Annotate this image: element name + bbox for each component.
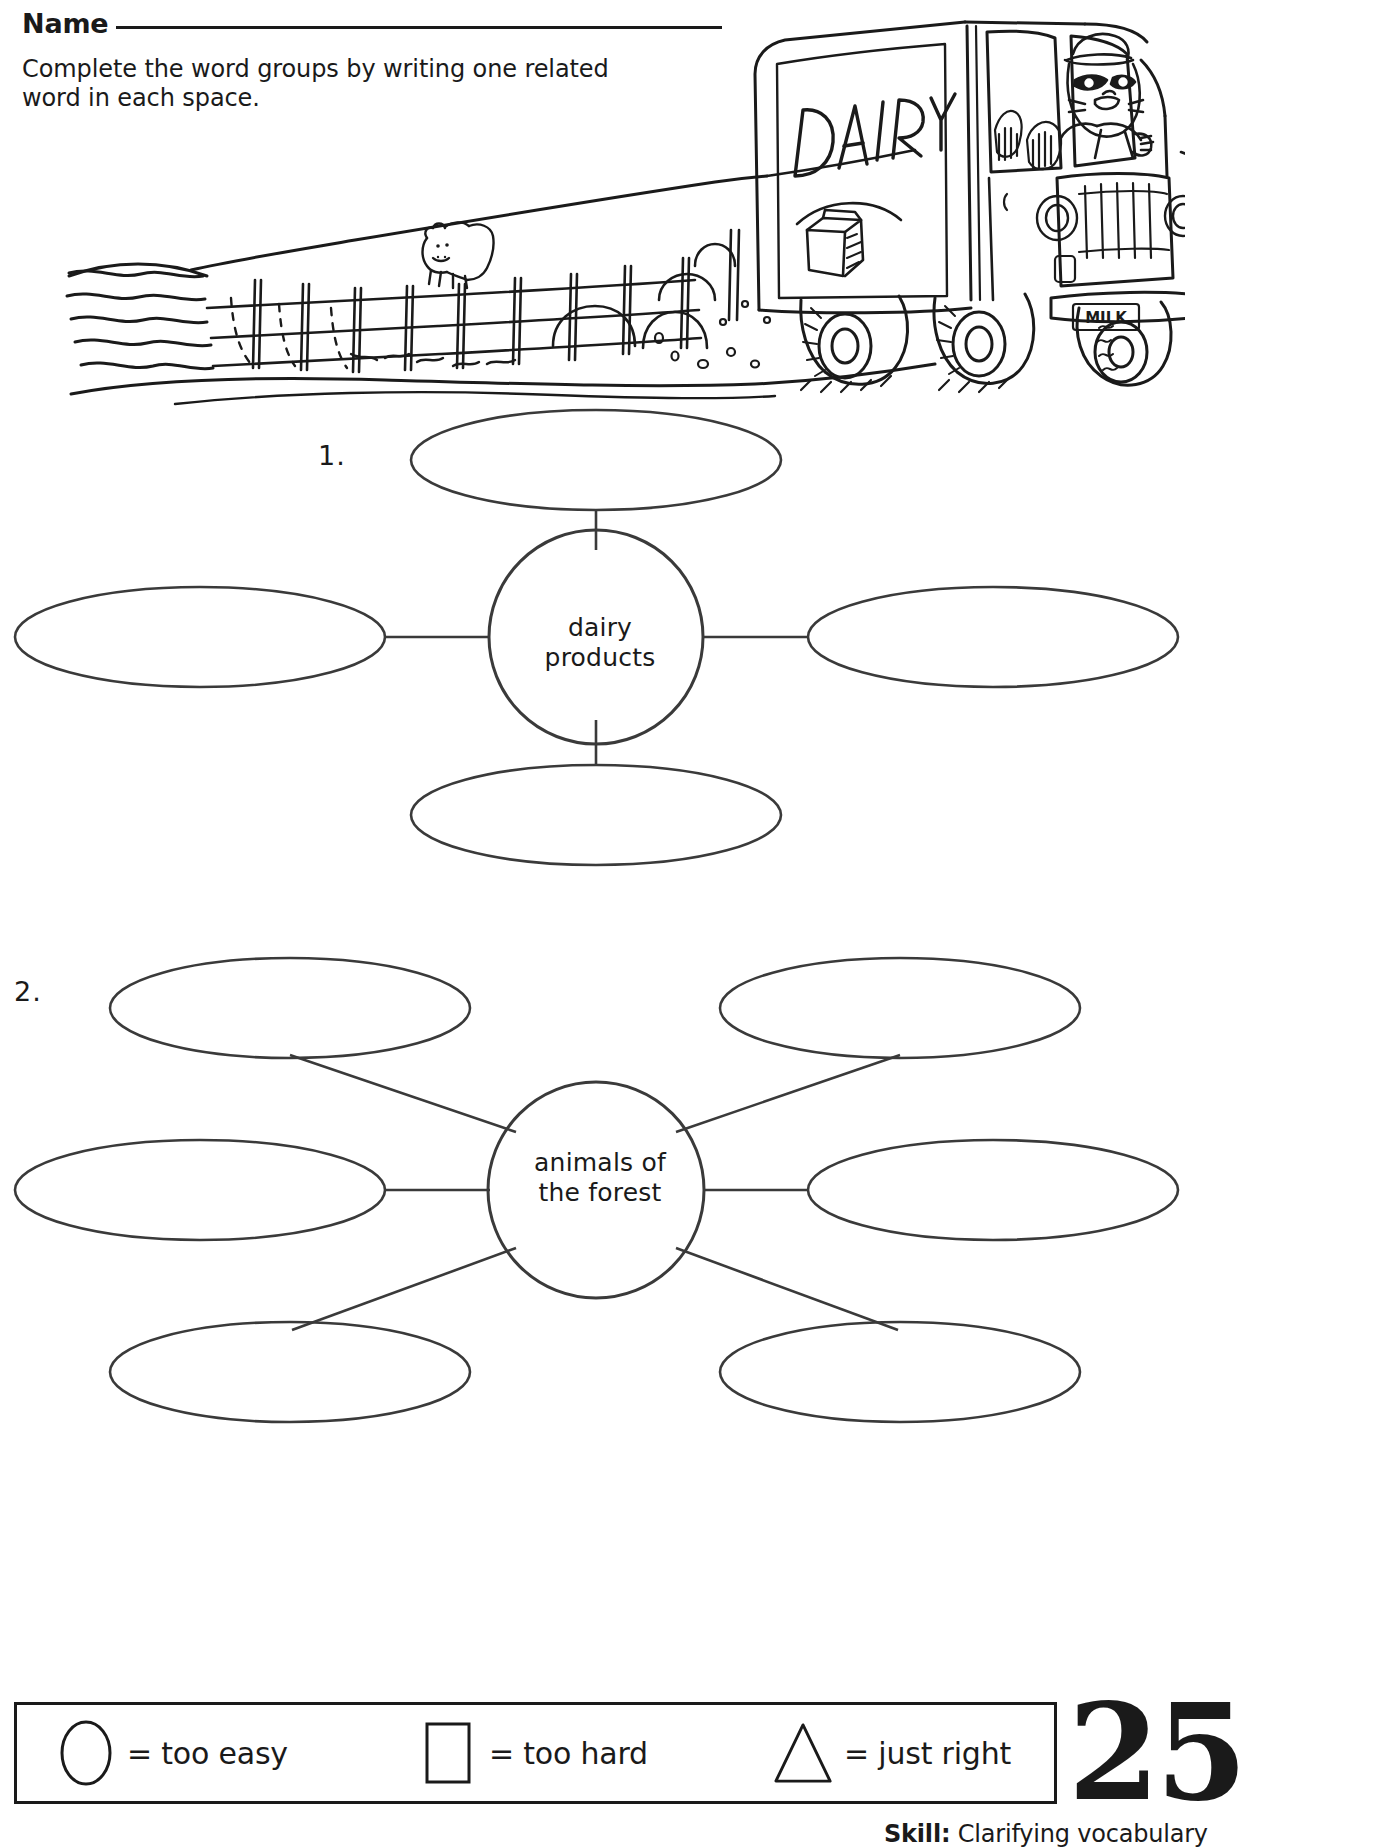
web-1-blank-left[interactable] [15,587,385,687]
dairy-truck-illustration: MILK [55,8,1185,408]
svg-text:MILK: MILK [1085,309,1128,327]
word-web-2 [0,950,1250,1420]
web-1-blank-right[interactable] [808,587,1178,687]
milk-license-plate: MILK [1073,304,1139,330]
legend-label-just-right: = just right [844,1736,1011,1771]
cow-figure [423,222,494,288]
road-bottom-2 [175,392,775,404]
page-number: 25 [1068,1690,1244,1815]
web-2-blank-right[interactable] [808,1140,1178,1240]
web-2-blank-bottom-right[interactable] [720,1322,1080,1422]
legend-item-just-right[interactable]: = just right [772,1718,1011,1788]
skill-prefix: Skill: [884,1820,950,1848]
truck-box-body [755,22,965,310]
milk-carton-logo [797,203,901,276]
legend-label-too-hard: = too hard [489,1736,648,1771]
web-1-connectors [385,510,808,915]
web-1-blank-top[interactable] [411,410,781,510]
ground-detail [351,354,515,366]
fur-tufts [995,111,1061,169]
dairy-sign-text [795,94,955,176]
web-2-blank-top-right[interactable] [720,958,1080,1058]
legend-item-too-hard[interactable]: = too hard [417,1718,648,1788]
circle-icon [55,1718,117,1788]
web-1-center-circle [489,530,703,744]
legend-label-too-easy: = too easy [127,1736,288,1771]
web-2-blank-bottom-left[interactable] [110,1322,470,1422]
skill-text: Clarifying vocabulary [950,1820,1208,1848]
word-web-1 [0,415,1250,885]
web-2-blank-top-left[interactable] [110,958,470,1058]
skill-line: Skill: Clarifying vocabulary [884,1820,1208,1848]
self-assessment-bar: = too easy = too hard = just right [14,1702,1057,1804]
legend-item-too-easy[interactable]: = too easy [55,1718,288,1788]
dairy-truck: MILK [755,22,1185,392]
hill-hatching [67,271,213,369]
hill-ridge [191,176,767,270]
roadside-bushes [553,244,735,348]
triangle-icon [772,1718,834,1788]
web-2-center-circle [488,1082,704,1298]
square-icon [417,1718,479,1788]
side-mirror [1181,135,1185,170]
web-1-blank-bottom[interactable] [411,765,781,865]
web-2-blank-left[interactable] [15,1140,385,1240]
